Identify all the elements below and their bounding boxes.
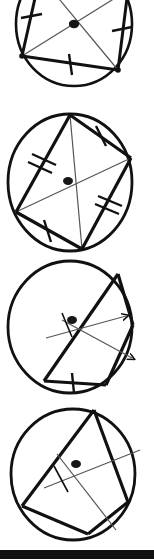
- center-label-o: O: [65, 176, 72, 186]
- circle-figure-2: O: [0, 112, 154, 256]
- chord-bc: [82, 158, 131, 249]
- figure-sheet: O O: [0, 0, 154, 560]
- chord-da: [22, 0, 40, 56]
- vertex-dot-a: [19, 53, 25, 59]
- circle-outline: [16, 0, 132, 86]
- vertex-dot-b: [115, 67, 121, 73]
- center-label-o: O: [73, 459, 80, 469]
- chord-bc: [106, 325, 133, 385]
- tick-mark-cd: [72, 373, 74, 393]
- center-label-o: O: [69, 315, 76, 325]
- tick-mark-ab: [69, 54, 72, 75]
- circle-figure-1: O: [0, 0, 154, 110]
- center-label-o: O: [71, 19, 78, 29]
- circle-figure-4: O: [0, 402, 154, 550]
- chord-cd: [22, 506, 88, 534]
- chord-cd: [44, 381, 106, 385]
- chord-da: [16, 115, 70, 212]
- diagonal-chord-bd: [16, 158, 131, 212]
- construction-line-perp: [57, 454, 116, 530]
- bottom-divider-bar: [0, 550, 154, 559]
- chord-da: [44, 274, 118, 381]
- circle-figure-3: O: [0, 257, 154, 401]
